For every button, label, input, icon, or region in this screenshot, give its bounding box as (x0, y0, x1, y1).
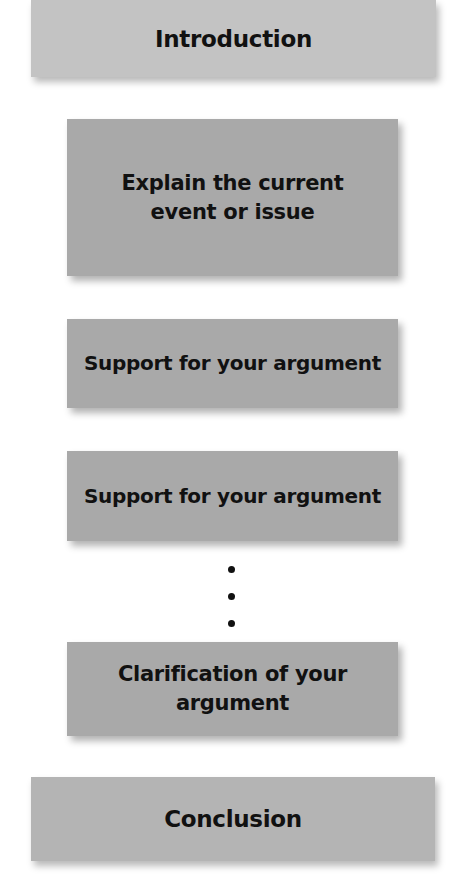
explain-event-label: Explain the current event or issue (105, 169, 361, 227)
clarification-box: Clarification of your argument (67, 642, 398, 736)
conclusion-box: Conclusion (31, 777, 435, 861)
support-argument-box-1: Support for your argument (67, 319, 398, 408)
support-argument-label-2: Support for your argument (76, 482, 389, 511)
support-argument-box-2: Support for your argument (67, 451, 398, 541)
ellipsis-dot-icon (228, 620, 235, 627)
ellipsis-dot-icon (228, 566, 235, 573)
clarification-label: Clarification of your argument (100, 660, 366, 718)
explain-event-box: Explain the current event or issue (67, 119, 398, 276)
support-argument-label-1: Support for your argument (76, 349, 389, 378)
introduction-label: Introduction (147, 26, 320, 52)
ellipsis-dot-icon (228, 593, 235, 600)
introduction-box: Introduction (31, 0, 436, 77)
conclusion-label: Conclusion (156, 806, 310, 832)
